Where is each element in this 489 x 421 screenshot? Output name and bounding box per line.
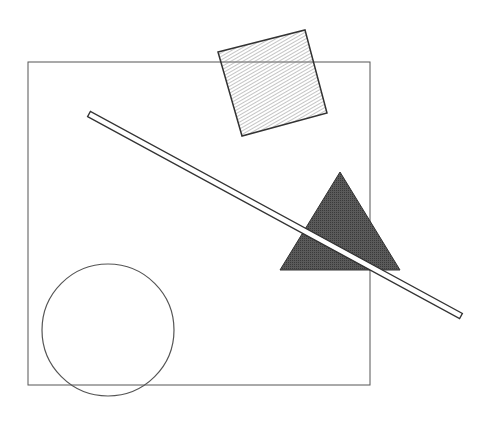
hatched-square-shape bbox=[218, 30, 327, 136]
circle-shape bbox=[42, 264, 174, 396]
diagonal-bar-shape bbox=[88, 111, 463, 318]
diagram-canvas bbox=[0, 0, 489, 421]
dark-triangle-shape bbox=[280, 172, 400, 270]
diagram-svg bbox=[0, 0, 489, 421]
